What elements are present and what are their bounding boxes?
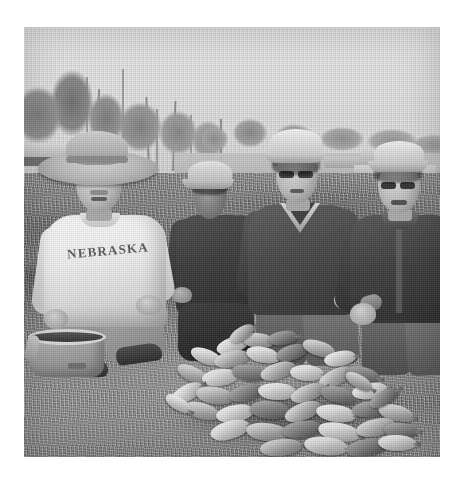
glasses-right-lens-icon [400, 182, 415, 189]
photo-page: NEBRASKA [0, 0, 462, 483]
bag-open-rim [28, 329, 106, 345]
bucket-hat-band [66, 156, 128, 163]
bag-tag [68, 363, 86, 369]
mouth [290, 189, 304, 193]
mouth [91, 197, 107, 201]
baseball-cap [374, 141, 424, 165]
baseball-cap [270, 129, 322, 155]
hand-left [350, 303, 376, 325]
moustache [90, 190, 108, 195]
glasses-left-lens-icon [381, 182, 396, 189]
photograph: NEBRASKA [24, 27, 440, 457]
soft-cooler-bag [26, 319, 108, 381]
fish-pile [164, 327, 416, 455]
baseball-cap [188, 161, 232, 183]
shirt-placket [396, 217, 402, 313]
mouth [391, 200, 407, 205]
hand-right [136, 295, 162, 315]
